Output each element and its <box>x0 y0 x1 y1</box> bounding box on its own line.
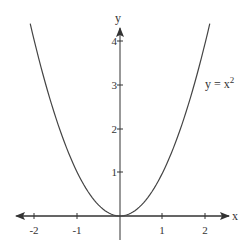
curve-label-exponent: 2 <box>230 75 235 85</box>
y-tick-label: 2 <box>112 123 118 135</box>
x-tick-label: -1 <box>72 224 81 236</box>
y-axis-label: y <box>115 11 121 25</box>
x-tick-label: 2 <box>202 224 208 236</box>
x-tick-label: 1 <box>159 224 165 236</box>
parabola-chart: -2 -1 1 2 1 2 3 4 x y y = x2 <box>0 0 250 252</box>
x-axis-label: x <box>232 209 238 223</box>
curve-label: y = x2 <box>205 75 234 91</box>
y-tick-label: 4 <box>112 35 118 47</box>
x-tick-label: -2 <box>29 224 38 236</box>
y-tick-label: 1 <box>112 166 118 178</box>
curve-label-base: y = x <box>205 77 230 91</box>
y-tick-label: 3 <box>112 79 118 91</box>
